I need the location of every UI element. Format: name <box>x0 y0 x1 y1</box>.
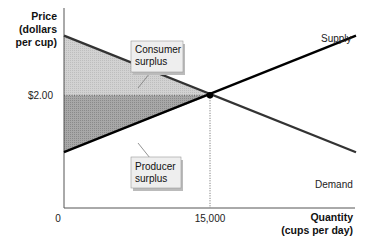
surplus-chart: Price (dollars per cup) $2.00 0 15,000 Q… <box>0 0 374 247</box>
y-axis-title-line-2: (dollars <box>19 23 57 35</box>
producer-surplus-callout: Producer surplus <box>131 143 183 191</box>
x-tick-label: 0 <box>55 213 61 224</box>
producer-surplus-label-line-1: Producer <box>135 161 176 172</box>
y-axis-title-line-1: Price <box>31 10 57 22</box>
x-axis-title-line-1: Quantity <box>310 211 353 223</box>
y-axis-title-line-3: per cup) <box>16 36 57 48</box>
demand-label: Demand <box>315 179 353 190</box>
x-axis-title-line-2: (cups per day) <box>281 224 353 236</box>
equilibrium-point <box>207 92 213 98</box>
supply-label: Supply <box>321 33 352 44</box>
consumer-surplus-label-line-1: Consumer <box>135 44 182 55</box>
x-tick-label: 15,000 <box>195 213 226 224</box>
producer-surplus-label-line-2: surplus <box>135 173 167 184</box>
consumer-surplus-label-line-2: surplus <box>135 56 167 67</box>
y-tick-label: $2.00 <box>28 90 53 101</box>
producer-surplus-pointer <box>138 143 150 158</box>
